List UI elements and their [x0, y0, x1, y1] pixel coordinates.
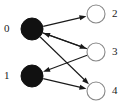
- graph-node-2: [87, 5, 105, 23]
- graph-node-1: [21, 65, 43, 87]
- node-label-4: 4: [112, 85, 118, 96]
- edge-line: [47, 34, 87, 49]
- edge-line: [43, 17, 83, 26]
- graph-node-3: [87, 43, 105, 61]
- node-label-1: 1: [4, 70, 10, 81]
- node-layer: [21, 5, 105, 100]
- edge-line: [40, 37, 86, 82]
- node-label-2: 2: [112, 8, 118, 19]
- graph-node-0: [21, 18, 43, 40]
- graph-edge: [43, 55, 87, 72]
- edge-line: [47, 55, 87, 70]
- edge-arrowhead-icon: [79, 85, 86, 90]
- graph-edge: [43, 79, 86, 90]
- edge-layer: [40, 15, 89, 89]
- node-label-3: 3: [112, 46, 118, 57]
- node-label-0: 0: [4, 23, 10, 34]
- edge-arrowhead-icon: [79, 15, 86, 20]
- edge-line: [43, 79, 83, 88]
- graph-canvas: [0, 0, 126, 108]
- edge-arrowhead-icon: [43, 33, 50, 38]
- graph-edge: [40, 37, 89, 84]
- graph-figure: 01234: [0, 0, 126, 108]
- graph-edge: [43, 15, 86, 26]
- graph-node-4: [87, 82, 105, 100]
- edge-arrowhead-icon: [43, 67, 50, 72]
